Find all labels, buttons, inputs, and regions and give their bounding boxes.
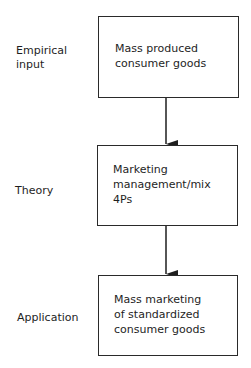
box-mass-produced-consumer-goods: Mass produced consumer goods <box>98 16 239 98</box>
box-text: Mass produced consumer goods <box>115 41 206 71</box>
box-text: Marketing management/mix 4Ps <box>113 162 211 207</box>
box-marketing-management-mix: Marketing management/mix 4Ps <box>97 145 238 226</box>
row-label-application: Application <box>17 311 78 325</box>
box-mass-marketing-standardized-goods: Mass marketing of standardized consumer … <box>98 275 238 356</box>
box-text: Mass marketing of standardized consumer … <box>114 292 205 337</box>
row-label-theory: Theory <box>15 184 53 198</box>
row-label-empirical-input: Empirical input <box>16 44 67 72</box>
